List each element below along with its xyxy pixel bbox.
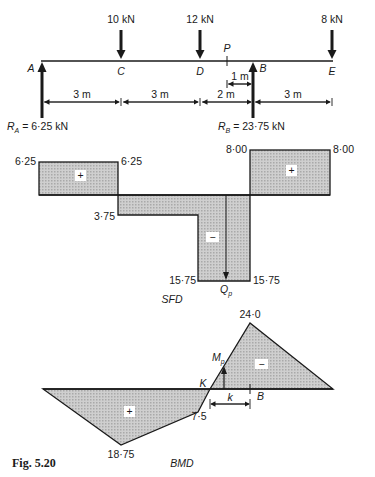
dimension-label-p-offset: 1 m [231, 70, 249, 82]
beam-diagram: 10 kN 12 kN 8 kN A C D P B E 1 m [7, 13, 343, 134]
span-label-db: 2 m [217, 88, 235, 100]
load-arrow-c [117, 30, 126, 59]
sfd-sign-negative: − [209, 231, 215, 243]
bmd-value-d: 7·5 [191, 410, 206, 422]
point-label-d: D [196, 65, 204, 77]
sfd-value-d: 15·75 [169, 274, 196, 286]
point-label-p: P [223, 42, 230, 54]
point-label-b: B [259, 62, 266, 74]
sfd-value-b-top: 8·00 [226, 143, 247, 155]
span-label-cd: 3 m [151, 88, 169, 100]
bending-moment-diagram: + − 24·0 7·5 18·75 K k B Mp BMD [43, 308, 333, 469]
reaction-label-b: RB = 23·75 kN [218, 120, 285, 134]
sfd-sign-positive-2: + [288, 164, 294, 176]
sfd-sign-positive-1: + [77, 169, 83, 181]
sfd-value-e-top: 8·00 [333, 143, 354, 155]
bmd-sign-negative: − [258, 358, 264, 370]
sfd-value-c-low: 3·75 [94, 210, 115, 222]
figure-canvas: 10 kN 12 kN 8 kN A C D P B E 1 m [0, 0, 375, 477]
sfd-value-a-left: 6·25 [15, 155, 36, 167]
load-label-c: 10 kN [107, 13, 134, 25]
bmd-k-dim-label: k [227, 391, 233, 403]
sfd-value-b: 15·75 [253, 274, 280, 286]
span-label-be: 3 m [284, 88, 302, 100]
point-label-a: A [26, 62, 34, 74]
reaction-arrow-a [38, 62, 47, 118]
point-label-e: E [328, 65, 336, 77]
load-arrow-d [196, 30, 205, 59]
bmd-mp-label: Mp [212, 351, 225, 366]
load-label-e: 8 kN [321, 13, 343, 25]
reaction-arrow-b [249, 62, 258, 118]
bmd-value-max-positive: 18·75 [108, 448, 135, 460]
bmd-k-label: K [199, 377, 207, 389]
bmd-title: BMD [170, 457, 194, 469]
span-label-ac: 3 m [73, 88, 91, 100]
sfd-title: SFD [162, 293, 183, 305]
sfd-qp-label: Qp [220, 283, 232, 298]
figure-caption: Fig. 5.20 [12, 456, 56, 470]
shear-force-diagram: + − + 6·25 6·25 3·75 15·75 15·75 8·00 8·… [15, 143, 354, 305]
load-label-d: 12 kN [186, 13, 213, 25]
reaction-label-a: RA = 6·25 kN [7, 120, 68, 134]
sfd-value-a-right: 6·25 [121, 155, 142, 167]
point-label-c: C [117, 65, 125, 77]
sfd-region-negative-cb [118, 195, 250, 281]
bmd-region-negative [210, 323, 333, 389]
bmd-b-label: B [257, 390, 264, 402]
bmd-value-max-negative: 24·0 [239, 308, 260, 320]
bmd-sign-positive: + [126, 405, 132, 417]
load-arrow-e [328, 30, 337, 59]
